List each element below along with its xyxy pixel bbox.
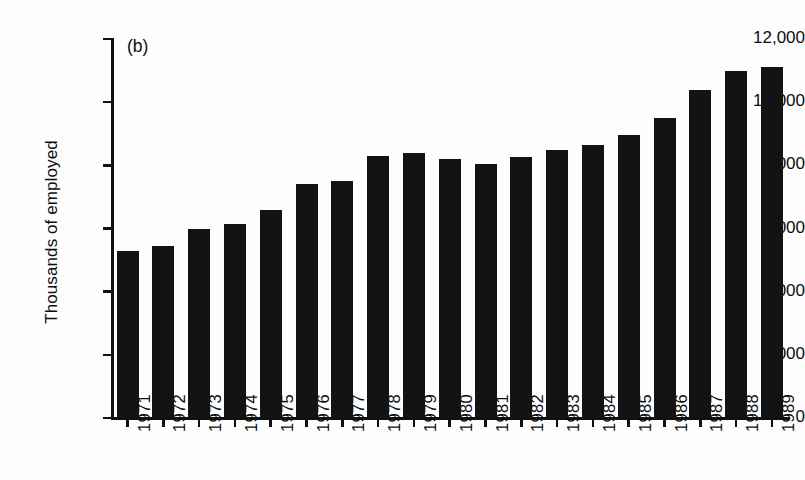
- bar-1988: [725, 71, 747, 418]
- x-axis-tick: [198, 419, 201, 427]
- bar-1978: [367, 156, 389, 418]
- y-axis-tick-label: 10,000: [707, 91, 805, 111]
- y-axis-title: Thousands of employed: [42, 72, 62, 392]
- y-axis-tick-label: 8,000: [707, 154, 805, 174]
- bar-1985: [618, 135, 640, 418]
- bar-1986: [654, 118, 676, 418]
- x-axis-tick: [269, 419, 272, 427]
- y-axis-tick-label: 12,000: [707, 28, 805, 48]
- bar-1974: [224, 224, 246, 418]
- y-axis-tick-label: 4,000: [707, 281, 805, 301]
- x-axis-tick: [592, 419, 595, 427]
- x-axis-tick: [377, 419, 380, 427]
- x-axis-tick: [520, 419, 523, 427]
- x-axis-tick: [126, 419, 129, 427]
- x-axis-tick: [413, 419, 416, 427]
- bar-1976: [296, 184, 318, 418]
- bar-1983: [546, 150, 568, 418]
- bar-1982: [510, 157, 532, 418]
- bar-1980: [439, 159, 461, 418]
- bar-1989: [761, 67, 783, 418]
- y-axis-tick: [103, 164, 112, 167]
- x-axis-tick: [448, 419, 451, 427]
- bar-chart-figure: Thousands of employed (b) 02,0004,0006,0…: [0, 0, 805, 480]
- x-axis-tick: [556, 419, 559, 427]
- x-axis-tick: [162, 419, 165, 427]
- y-axis-tick: [103, 417, 112, 420]
- bar-1971: [117, 251, 139, 418]
- x-axis-tick: [663, 419, 666, 427]
- y-axis-tick: [103, 290, 112, 293]
- x-axis-tick: [234, 419, 237, 427]
- bar-1977: [331, 181, 353, 418]
- bar-1979: [403, 153, 425, 418]
- panel-label: (b): [127, 36, 148, 57]
- x-axis-tick: [699, 419, 702, 427]
- bar-1975: [260, 210, 282, 418]
- x-axis-tick: [735, 419, 738, 427]
- bar-1981: [475, 164, 497, 418]
- y-axis-tick-label: 2,000: [707, 344, 805, 364]
- x-axis-tick: [627, 419, 630, 427]
- x-axis-tick: [771, 419, 774, 427]
- bar-1973: [188, 229, 210, 419]
- y-axis-tick: [103, 38, 112, 41]
- bar-1987: [689, 90, 711, 418]
- y-axis-tick: [103, 354, 112, 357]
- y-axis-tick-label: 6,000: [707, 218, 805, 238]
- bar-1984: [582, 145, 604, 418]
- x-axis-tick: [341, 419, 344, 427]
- x-axis-tick: [305, 419, 308, 427]
- x-axis-tick: [484, 419, 487, 427]
- bar-1972: [152, 246, 174, 418]
- y-axis-tick: [103, 227, 112, 230]
- y-axis-tick: [103, 101, 112, 104]
